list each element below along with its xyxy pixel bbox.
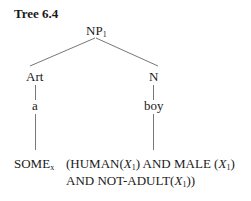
node-n: N xyxy=(149,70,158,84)
semantics-line-1: (HUMAN(X1) AND MALE (X1) xyxy=(66,157,235,171)
node-np1: NP1 xyxy=(86,24,107,38)
semantics-line-2: AND NOT-ADULT(X1)) xyxy=(66,174,195,188)
edge-np-n xyxy=(96,38,158,66)
edge-np-art xyxy=(30,38,95,66)
node-a: a xyxy=(32,99,38,113)
node-boy: boy xyxy=(144,99,164,113)
node-art: Art xyxy=(26,70,43,84)
node-some: SOMEx xyxy=(14,157,54,171)
